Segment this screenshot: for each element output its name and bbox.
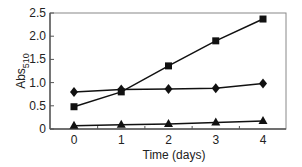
square-marker [212, 37, 219, 44]
axis-labels: 00.51.01.52.02.501234Time (days)Abs510 [14, 6, 267, 162]
y-tick-label: 0 [39, 122, 46, 136]
triangle-marker [70, 121, 79, 129]
x-tick-label: 1 [118, 133, 125, 147]
y-tick-label: 2.0 [29, 29, 46, 43]
square-marker [71, 103, 78, 110]
triangle-marker [211, 118, 220, 126]
x-tick-label: 4 [260, 133, 267, 147]
diamond-marker [259, 79, 267, 89]
y-tick-label: 1.5 [29, 52, 46, 66]
y-tick-label: 2.5 [29, 6, 46, 20]
triangle-marker [164, 119, 173, 127]
square-marker [260, 16, 267, 23]
y-axis-title-main: Abs [14, 68, 28, 89]
diamond-marker [212, 83, 220, 93]
plot-frame [50, 13, 286, 129]
line-chart: 00.51.01.52.02.501234Time (days)Abs510 [0, 0, 302, 167]
y-tick-label: 1.0 [29, 76, 46, 90]
triangle-marker [117, 120, 126, 128]
diamond-marker [70, 87, 78, 97]
square-marker [165, 62, 172, 69]
x-tick-label: 0 [71, 133, 78, 147]
y-axis-title-subscript: 510 [21, 53, 31, 68]
x-tick-label: 3 [212, 133, 219, 147]
x-axis-title: Time (days) [143, 148, 206, 162]
x-tick-label: 2 [165, 133, 172, 147]
diamond-marker [165, 84, 173, 94]
triangle-marker [259, 116, 268, 124]
data-series [70, 16, 268, 129]
plot-border [50, 13, 286, 129]
y-tick-label: 0.5 [29, 99, 46, 113]
